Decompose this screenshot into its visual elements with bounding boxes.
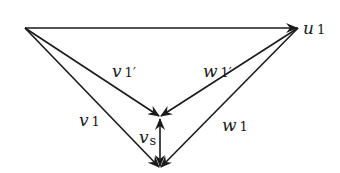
vector-w1-arrow [161,28,298,167]
label-w1-prime: w1′ [203,61,232,81]
label-w1: w1 [222,115,248,135]
vector-v1-prime-arrow [25,28,159,116]
vector-diagram: u1 v1′ w1′ v1 vs w1 [0,0,340,173]
label-v1: v1 [79,110,100,130]
label-v1-prime: v1′ [112,61,136,81]
label-u1: u1 [303,18,325,38]
label-vs: vs [139,127,156,148]
